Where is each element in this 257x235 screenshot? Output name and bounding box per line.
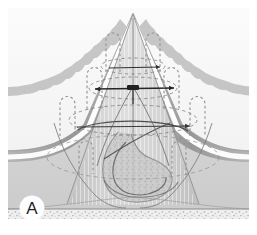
- figure-panel-a: A: [0, 0, 257, 235]
- anatomical-cross-section-illustration: A: [0, 0, 257, 235]
- panel-letter-badge: A: [20, 196, 45, 221]
- central-clip-marker: [127, 85, 139, 90]
- panel-letter-label: A: [26, 199, 38, 218]
